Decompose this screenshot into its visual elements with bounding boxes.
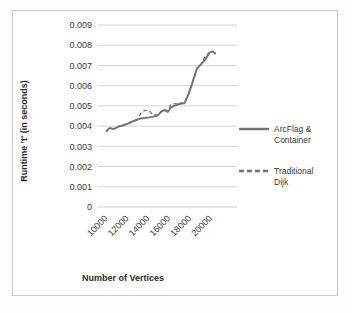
y-tick-label: 0.006 bbox=[69, 81, 92, 91]
series-line bbox=[106, 51, 215, 131]
chart-frame: Runtime 't' (in seconds) 00.0010.0020.00… bbox=[12, 10, 338, 296]
x-tick-label: 20000 bbox=[189, 213, 214, 238]
y-tick-label: 0.005 bbox=[69, 101, 92, 111]
y-tick-label: 0.007 bbox=[69, 61, 92, 71]
x-axis-title: Number of Vertices bbox=[82, 273, 164, 283]
y-tick-label: 0 bbox=[87, 202, 92, 212]
y-tick-label: 0.003 bbox=[69, 142, 92, 152]
x-tick-labels: 100001200014000160001800020000 bbox=[85, 213, 214, 238]
chart-canvas: Runtime 't' (in seconds) 00.0010.0020.00… bbox=[13, 11, 337, 295]
y-tick-label: 0.008 bbox=[69, 40, 92, 50]
data-series-layer bbox=[106, 51, 215, 132]
y-tick-label: 0.002 bbox=[69, 162, 92, 172]
figure-root: Runtime 't' (in seconds) 00.0010.0020.00… bbox=[0, 0, 352, 313]
y-tick-labels: 00.0010.0020.0030.0040.0050.0060.0070.00… bbox=[69, 20, 92, 212]
x-tick-label: 16000 bbox=[148, 213, 173, 238]
y-tick-label: 0.001 bbox=[69, 182, 92, 192]
y-axis-title: Runtime 't' (in seconds) bbox=[19, 80, 29, 181]
legend-item-label-1b: Container bbox=[274, 135, 311, 145]
y-tick-label: 0.009 bbox=[69, 20, 92, 30]
x-tick-label: 14000 bbox=[127, 213, 152, 238]
legend-item-label-2a: Traditional bbox=[274, 166, 313, 176]
x-tick-label: 10000 bbox=[85, 213, 110, 238]
legend-item-label-2b: Dijk bbox=[274, 177, 289, 187]
legend-item-label-1a: ArcFlag & bbox=[274, 124, 312, 134]
series-line bbox=[106, 52, 215, 132]
y-gridlines bbox=[98, 25, 237, 207]
chart-legend: ArcFlag & Container Traditional Dijk bbox=[239, 124, 313, 187]
x-tick-label: 12000 bbox=[106, 213, 131, 238]
y-tick-label: 0.004 bbox=[69, 121, 92, 131]
x-tick-label: 18000 bbox=[168, 213, 193, 238]
